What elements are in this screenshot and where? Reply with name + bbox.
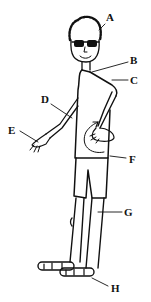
hand-on-hip: [92, 128, 114, 141]
neck: [82, 62, 90, 70]
sunglasses-right-lens: [87, 40, 97, 47]
right-leg: [86, 198, 104, 268]
left-leg: [70, 198, 84, 262]
label-h: H: [111, 283, 120, 294]
label-g: G: [124, 207, 133, 218]
label-c: C: [130, 75, 138, 86]
label-d: D: [41, 94, 49, 105]
head: [69, 17, 100, 62]
curly-hair: [69, 17, 100, 40]
leader-lines: [20, 24, 128, 286]
knee: [71, 218, 73, 226]
label-b: B: [130, 55, 137, 66]
sunglasses-left-lens: [74, 40, 84, 47]
shirt: [75, 70, 117, 158]
right-sandal: [60, 268, 94, 276]
arm-on-hip: [98, 92, 116, 128]
label-f: F: [129, 154, 136, 165]
shorts: [74, 158, 108, 198]
label-e: E: [8, 125, 15, 136]
man-illustration: [0, 0, 151, 302]
label-a: A: [106, 12, 114, 23]
